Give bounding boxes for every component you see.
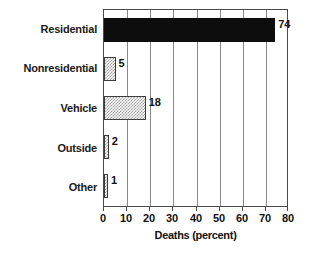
bars-layer: 74 5 18 2 1 bbox=[104, 10, 287, 206]
tick-label: 0 bbox=[100, 212, 106, 225]
tick-label: 30 bbox=[166, 212, 178, 225]
category-axis: Residential Nonresidential Vehicle Outsi… bbox=[0, 9, 97, 207]
bar-value-other: 1 bbox=[111, 175, 117, 186]
tick-mark bbox=[265, 207, 266, 211]
tick-mark bbox=[126, 207, 127, 211]
tick-label: 60 bbox=[236, 212, 248, 225]
tick-mark bbox=[287, 207, 288, 211]
plot-area: 74 5 18 2 1 bbox=[103, 9, 288, 207]
bar-row: 5 bbox=[104, 57, 287, 81]
tick-label: 40 bbox=[190, 212, 202, 225]
bar-row: 1 bbox=[104, 174, 287, 198]
tick-label: 50 bbox=[213, 212, 225, 225]
category-label-vehicle: Vehicle bbox=[60, 102, 97, 114]
category-label-residential: Residential bbox=[41, 23, 98, 35]
tick-mark bbox=[149, 207, 150, 211]
bar-value-vehicle: 18 bbox=[149, 97, 161, 108]
tick-label: 10 bbox=[120, 212, 132, 225]
tick-label: 70 bbox=[259, 212, 271, 225]
bar-residential: 74 bbox=[104, 18, 275, 42]
tick-label: 80 bbox=[282, 212, 294, 225]
tick-mark bbox=[242, 207, 243, 211]
category-label-nonresidential: Nonresidential bbox=[23, 62, 97, 74]
tick-mark bbox=[103, 207, 104, 211]
bar-row: 2 bbox=[104, 135, 287, 159]
bar-row: 18 bbox=[104, 96, 287, 120]
x-axis-title: Deaths (percent) bbox=[103, 229, 288, 242]
bar-row: 74 bbox=[104, 18, 287, 42]
bar-outside: 2 bbox=[104, 135, 109, 159]
bar-nonresidential: 5 bbox=[104, 57, 116, 81]
tick-mark bbox=[219, 207, 220, 211]
category-label-outside: Outside bbox=[57, 142, 97, 154]
category-label-other: Other bbox=[69, 181, 97, 193]
bar-vehicle: 18 bbox=[104, 96, 146, 120]
tick-label: 20 bbox=[143, 212, 155, 225]
bar-value-residential: 74 bbox=[278, 19, 290, 30]
tick-mark bbox=[196, 207, 197, 211]
x-axis-tick-marks bbox=[103, 207, 288, 211]
x-axis-tick-labels: 01020304050607080 bbox=[103, 212, 288, 226]
bar-other: 1 bbox=[104, 174, 108, 198]
bar-chart-figure: Residential Nonresidential Vehicle Outsi… bbox=[0, 0, 311, 257]
bar-value-outside: 2 bbox=[112, 136, 118, 147]
tick-mark bbox=[172, 207, 173, 211]
bar-value-nonresidential: 5 bbox=[119, 58, 125, 69]
